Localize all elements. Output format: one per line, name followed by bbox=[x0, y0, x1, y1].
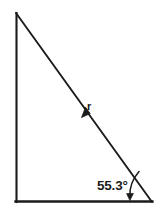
angle-label: 55.3° bbox=[97, 179, 128, 193]
triangle-figure-svg bbox=[0, 0, 164, 212]
vector-label-r: r bbox=[87, 101, 91, 112]
angle-arrowhead-icon bbox=[127, 193, 134, 200]
hypotenuse bbox=[16, 13, 152, 202]
triangle-diagram: 55.3° r bbox=[0, 0, 164, 212]
angle-arc bbox=[130, 172, 139, 197]
